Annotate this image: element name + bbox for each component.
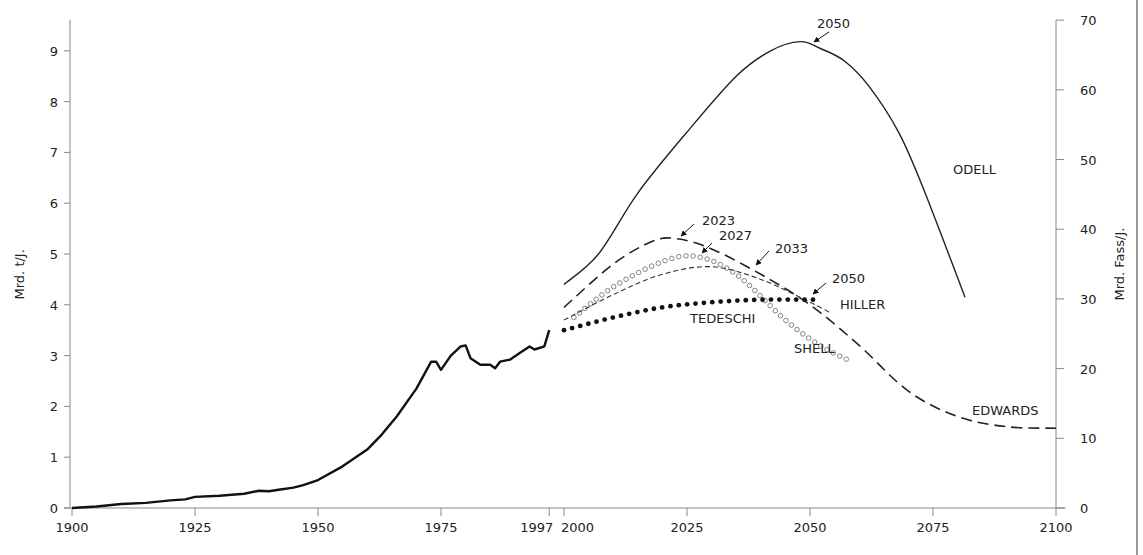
annotation-odell-peak: 2050 — [817, 16, 850, 31]
left-tick-label: 5 — [50, 247, 58, 262]
right-tick-label: 70 — [1080, 13, 1097, 28]
series-tedeschi — [562, 297, 816, 332]
x-tick-label: 1950 — [301, 520, 334, 535]
series-layer — [72, 42, 1056, 508]
series-labels: ODELLEDWARDSSHELLHILLERTEDESCHI — [689, 162, 1039, 418]
right-tick-label: 50 — [1080, 153, 1097, 168]
annotation-hiller-peak: 2033 — [775, 241, 808, 256]
annotation-shell-peak: 2027 — [719, 228, 752, 243]
label-edwards: EDWARDS — [972, 403, 1039, 418]
annotation-edwards-peak: 2023 — [702, 213, 735, 228]
series-historical-production — [72, 330, 549, 508]
annotation-arrow-icon — [814, 32, 829, 42]
x-tick-label: 1975 — [424, 520, 457, 535]
left-tick-label: 8 — [50, 95, 58, 110]
x-tick-label: 1925 — [178, 520, 211, 535]
right-tick-label: 60 — [1080, 83, 1097, 98]
left-tick-label: 0 — [50, 501, 58, 516]
label-hiller: HILLER — [840, 297, 885, 312]
x-tick-label: 2075 — [916, 520, 949, 535]
series-odell — [564, 42, 965, 298]
annotation-tedeschi-peak: 2050 — [832, 271, 865, 286]
series-edwards — [564, 238, 1056, 428]
x-tick-label: 2050 — [793, 520, 826, 535]
annotation-arrow-icon — [756, 251, 769, 265]
left-tick-label: 7 — [50, 145, 58, 160]
right-tick-label: 20 — [1080, 362, 1097, 377]
left-tick-label: 3 — [50, 349, 58, 364]
label-tedeschi: TEDESCHI — [689, 311, 755, 326]
right-tick-label: 10 — [1080, 431, 1097, 446]
oil-production-chart: 0123456789010203040506070190019251950197… — [0, 0, 1143, 555]
left-axis-title: Mrd. t/J. — [12, 249, 27, 299]
left-tick-label: 6 — [50, 196, 58, 211]
label-shell: SHELL — [794, 341, 835, 356]
label-odell: ODELL — [953, 162, 997, 177]
x-tick-label: 2000 — [561, 520, 594, 535]
left-tick-label: 4 — [50, 298, 58, 313]
right-tick-label: 40 — [1080, 222, 1097, 237]
right-tick-label: 30 — [1080, 292, 1097, 307]
axes: 0123456789010203040506070190019251950197… — [12, 13, 1127, 535]
left-tick-label: 1 — [50, 450, 58, 465]
x-tick-label: 2025 — [670, 520, 703, 535]
peak-annotations: 20502023202720332050 — [681, 16, 865, 294]
left-tick-label: 9 — [50, 44, 58, 59]
right-tick-label: 0 — [1080, 501, 1088, 516]
left-tick-label: 2 — [50, 399, 58, 414]
x-tick-label: 2100 — [1039, 520, 1072, 535]
annotation-arrow-icon — [681, 224, 694, 236]
right-axis-title: Mrd. Fass/J. — [1112, 228, 1127, 301]
annotation-arrow-icon — [813, 283, 826, 294]
x-tick-label: 1900 — [55, 520, 88, 535]
x-tick-label: 1997 — [520, 520, 553, 535]
